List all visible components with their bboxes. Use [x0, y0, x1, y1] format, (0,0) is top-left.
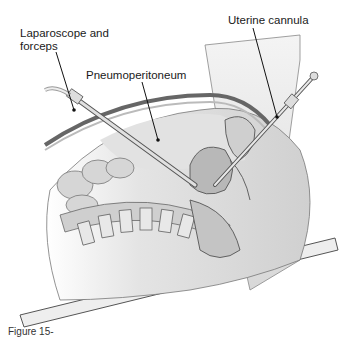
figure-caption: Figure 15- — [8, 326, 54, 337]
label-laparoscope: Laparoscope and forceps — [20, 27, 109, 53]
label-pneumoperitoneum: Pneumoperitoneum — [86, 69, 186, 82]
label-laparoscope-line2: forceps — [20, 40, 109, 53]
label-uterine-cannula: Uterine cannula — [228, 14, 309, 27]
label-laparoscope-line1: Laparoscope and — [20, 27, 109, 40]
